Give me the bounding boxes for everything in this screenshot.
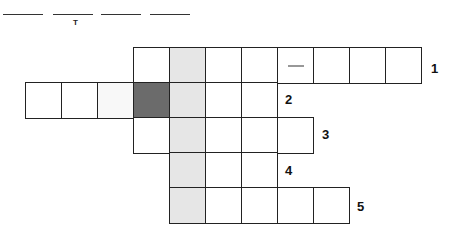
clue-number-1: 1: [431, 62, 438, 75]
cell-r2-c7[interactable]: [242, 83, 278, 118]
clue-number-2: 2: [285, 93, 292, 106]
crossword-row-5: [169, 187, 350, 224]
crossword-row-2: [25, 82, 278, 119]
cell-r3-c5[interactable]: [278, 118, 314, 153]
cell-r2-c3[interactable]: [98, 83, 134, 118]
cell-r1-c6[interactable]: [314, 48, 350, 83]
cell-r5-c3[interactable]: [242, 188, 278, 223]
cell-r5-c1-keyword[interactable]: [170, 188, 206, 223]
cell-r4-c2[interactable]: [206, 153, 242, 188]
cell-r5-c2[interactable]: [206, 188, 242, 223]
answer-blank-1[interactable]: [3, 14, 43, 15]
cell-r2-c4-highlighted[interactable]: [134, 83, 170, 118]
clue-number-5: 5: [357, 200, 364, 213]
cell-r3-c2-keyword[interactable]: [170, 118, 206, 153]
crossword-row-1: [133, 47, 422, 84]
cell-r2-c1[interactable]: [26, 83, 62, 118]
cell-r1-c4[interactable]: [242, 48, 278, 83]
cell-r1-c7[interactable]: [350, 48, 386, 83]
cell-r3-c1[interactable]: [134, 118, 170, 153]
cell-r1-c2-keyword[interactable]: [170, 48, 206, 83]
cell-r1-c1[interactable]: [134, 48, 170, 83]
cell-r2-c6[interactable]: [206, 83, 242, 118]
cell-r4-c3[interactable]: [242, 153, 278, 188]
hyphen-mark: [288, 65, 304, 66]
cell-r1-c3[interactable]: [206, 48, 242, 83]
answer-hint-letter: T: [73, 18, 78, 27]
answer-blank-2[interactable]: [53, 14, 93, 15]
cell-r5-c4[interactable]: [278, 188, 314, 223]
clue-number-3: 3: [322, 128, 329, 141]
crossword-row-4: [169, 152, 278, 189]
answer-blank-3[interactable]: [101, 14, 141, 15]
cell-r4-c1-keyword[interactable]: [170, 153, 206, 188]
cell-r3-c4[interactable]: [242, 118, 278, 153]
cell-r2-c2[interactable]: [62, 83, 98, 118]
crossword-row-3: [133, 117, 314, 154]
cell-r1-c8[interactable]: [386, 48, 422, 83]
cell-r3-c3[interactable]: [206, 118, 242, 153]
cell-r1-c5[interactable]: [278, 48, 314, 83]
answer-blank-4[interactable]: [150, 14, 190, 15]
cell-r2-c5-keyword[interactable]: [170, 83, 206, 118]
clue-number-4: 4: [285, 164, 292, 177]
cell-r5-c5[interactable]: [314, 188, 350, 223]
